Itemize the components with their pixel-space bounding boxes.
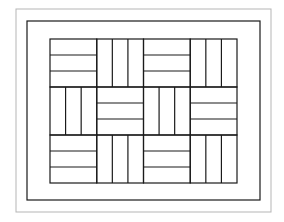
block-horizontal xyxy=(144,135,191,183)
block-outline xyxy=(50,39,97,87)
block-outline xyxy=(190,87,237,135)
block-outline xyxy=(97,135,144,183)
block-outline xyxy=(190,135,237,183)
block-vertical xyxy=(144,87,191,135)
block-outline xyxy=(50,87,97,135)
block-outline xyxy=(190,39,237,87)
block-horizontal xyxy=(50,135,97,183)
block-outline xyxy=(50,135,97,183)
block-horizontal xyxy=(144,39,191,87)
block-vertical xyxy=(190,135,237,183)
block-outline xyxy=(97,39,144,87)
block-outline xyxy=(144,87,191,135)
block-vertical xyxy=(190,39,237,87)
block-vertical xyxy=(50,87,97,135)
block-vertical xyxy=(97,135,144,183)
block-outline xyxy=(144,39,191,87)
block-horizontal xyxy=(50,39,97,87)
block-outline xyxy=(144,135,191,183)
block-horizontal xyxy=(190,87,237,135)
block-horizontal xyxy=(97,87,144,135)
block-outline xyxy=(97,87,144,135)
block-grid xyxy=(50,39,237,183)
block-vertical xyxy=(97,39,144,87)
quilt-diagram xyxy=(0,0,284,222)
